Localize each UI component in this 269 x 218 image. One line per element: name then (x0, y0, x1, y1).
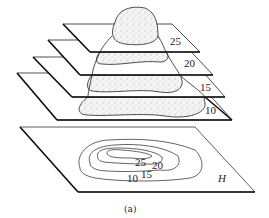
contour-diagram: 10 15 20 25 25 (0, 0, 269, 218)
hill-section-15 (88, 75, 183, 93)
contour-label-15: 15 (141, 168, 153, 180)
plane-25: 25 (63, 7, 200, 52)
plane-label-15: 15 (200, 81, 212, 93)
plane-label-10: 10 (205, 104, 217, 116)
contour-label-20: 20 (152, 159, 164, 171)
hill-peak (112, 7, 158, 45)
plane-label-h: H (217, 172, 227, 184)
figure-caption: (a) (124, 204, 136, 214)
contour-label-25: 25 (135, 156, 147, 168)
projection-plane-h: 25 20 15 10 H (20, 127, 255, 192)
plane-label-20: 20 (184, 57, 196, 69)
plane-label-25: 25 (170, 35, 182, 47)
contour-label-10: 10 (127, 172, 139, 184)
hill-section-10 (79, 97, 205, 117)
